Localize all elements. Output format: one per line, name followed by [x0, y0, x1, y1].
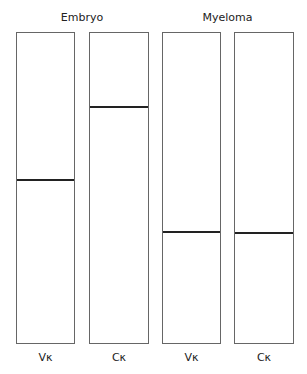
lane-embryo-ck	[89, 32, 149, 344]
lane-myeloma-vk	[162, 32, 221, 344]
lane-label-myeloma-ck: Cκ	[234, 351, 294, 364]
band	[163, 231, 220, 233]
group-label-embryo: Embryo	[16, 11, 148, 24]
group-label-myeloma: Myeloma	[162, 11, 293, 24]
lane-label-myeloma-vk: Vκ	[162, 351, 221, 364]
lane-label-embryo-vk: Vκ	[16, 351, 75, 364]
band	[90, 106, 148, 108]
lane-label-embryo-ck: Cκ	[89, 351, 149, 364]
band	[17, 179, 74, 181]
band	[235, 232, 293, 234]
lane-embryo-vk	[16, 32, 75, 344]
lane-myeloma-ck	[234, 32, 294, 344]
